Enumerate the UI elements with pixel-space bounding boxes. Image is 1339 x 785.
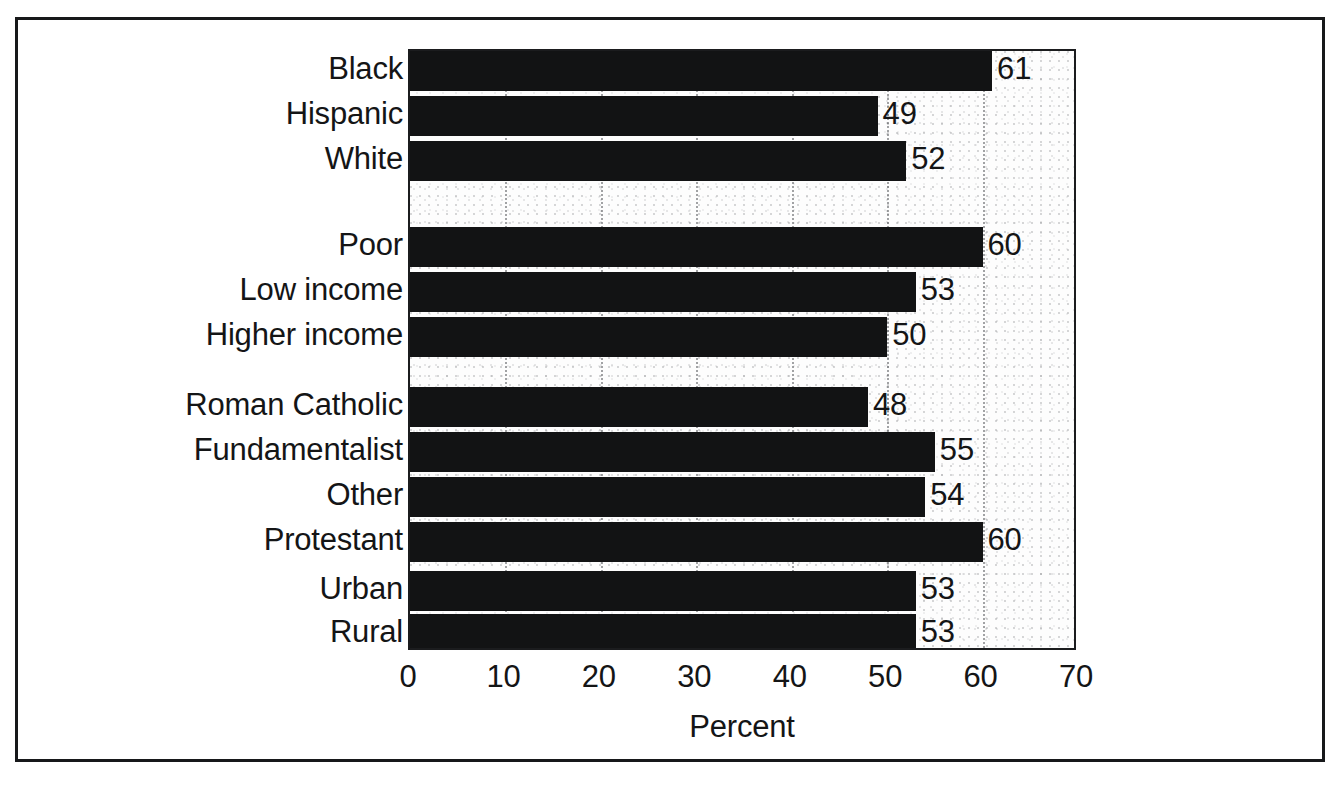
x-tick-label-30: 30	[649, 658, 739, 696]
bar[interactable]	[410, 477, 925, 517]
category-label: Roman Catholic	[185, 385, 403, 425]
gridline-60	[983, 51, 985, 648]
category-label: Higher income	[206, 315, 403, 355]
bar-row	[410, 614, 916, 650]
bar[interactable]	[410, 387, 868, 427]
bar-row	[410, 227, 983, 267]
bar-row	[410, 96, 878, 136]
bar[interactable]	[410, 227, 983, 267]
bar-value-label: 49	[883, 94, 917, 134]
bar-value-label: 52	[911, 139, 945, 179]
bar-row	[410, 571, 916, 611]
bar-value-label: 60	[988, 225, 1022, 265]
category-label: Fundamentalist	[194, 430, 403, 470]
bar-value-label: 53	[921, 569, 955, 609]
x-tick-label-50: 50	[840, 658, 930, 696]
category-label: Protestant	[264, 520, 403, 560]
bar-value-label: 53	[921, 612, 955, 652]
bar-row	[410, 432, 935, 472]
bar[interactable]	[410, 272, 916, 312]
bar[interactable]	[410, 317, 887, 357]
x-tick-label-0: 0	[363, 658, 453, 696]
bar-value-label: 53	[921, 270, 955, 310]
bar-row	[410, 477, 925, 517]
bar[interactable]	[410, 614, 916, 650]
x-axis-title: Percent	[408, 708, 1076, 746]
category-label: Urban	[320, 569, 403, 609]
bar-value-label: 54	[930, 475, 964, 515]
bar[interactable]	[410, 571, 916, 611]
chart-canvas: Black61Hispanic49White52Poor60Low income…	[0, 0, 1339, 785]
bar[interactable]	[410, 51, 992, 91]
bar-value-label: 61	[997, 49, 1031, 89]
bar[interactable]	[410, 141, 906, 181]
plot-area	[408, 49, 1076, 650]
bar-value-label: 48	[873, 385, 907, 425]
bar-value-label: 55	[940, 430, 974, 470]
bar-row	[410, 272, 916, 312]
category-label: Hispanic	[286, 94, 403, 134]
bar-row	[410, 522, 983, 562]
bar-row	[410, 141, 906, 181]
x-tick-label-70: 70	[1031, 658, 1121, 696]
category-label: Rural	[330, 612, 403, 652]
category-label: Other	[326, 475, 403, 515]
category-label: Black	[328, 49, 403, 89]
x-tick-label-60: 60	[936, 658, 1026, 696]
category-label: Low income	[240, 270, 403, 310]
bar-value-label: 60	[988, 520, 1022, 560]
bar-row	[410, 387, 868, 427]
category-label: White	[325, 139, 403, 179]
x-tick-label-10: 10	[458, 658, 548, 696]
bar-value-label: 50	[892, 315, 926, 355]
bar[interactable]	[410, 522, 983, 562]
bar[interactable]	[410, 432, 935, 472]
x-tick-label-40: 40	[745, 658, 835, 696]
x-tick-label-20: 20	[554, 658, 644, 696]
category-label: Poor	[338, 225, 403, 265]
bar[interactable]	[410, 96, 878, 136]
bar-row	[410, 51, 992, 91]
bar-row	[410, 317, 887, 357]
